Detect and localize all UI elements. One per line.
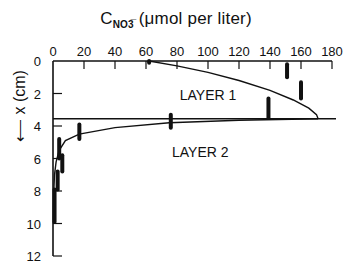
x-tick-label: 140 <box>259 44 281 59</box>
x-tick-label: 80 <box>170 44 184 59</box>
y-tick-label: 4 <box>34 119 41 134</box>
x-tick-label: 100 <box>197 44 219 59</box>
y-tick-label: 0 <box>34 54 41 69</box>
x-tick-label: 0 <box>49 44 56 59</box>
y-tick-label: 10 <box>27 217 41 232</box>
y-tick-label: 2 <box>34 87 41 102</box>
layer-label: LAYER 1 <box>180 87 237 103</box>
x-tick-label: 120 <box>228 44 250 59</box>
down-arrow-icon: ⟵ <box>11 115 28 142</box>
x-tick-label: 60 <box>139 44 153 59</box>
y-tick-label: 12 <box>27 249 41 264</box>
x-tick-label: 180 <box>321 44 343 59</box>
layer-label: LAYER 2 <box>172 144 229 160</box>
x-tick-label: 40 <box>108 44 122 59</box>
profile-curve <box>54 119 319 224</box>
y-tick-label: 6 <box>34 152 41 167</box>
x-tick-label: 20 <box>77 44 91 59</box>
y-tick-label: 8 <box>34 184 41 199</box>
chart-plot: 020406080100120140160180024681012LAYER 1… <box>0 0 352 271</box>
y-axis-label-text: x (cm) <box>11 70 28 114</box>
x-tick-label: 160 <box>290 44 312 59</box>
y-axis-label: ⟵ x (cm) <box>10 70 29 142</box>
